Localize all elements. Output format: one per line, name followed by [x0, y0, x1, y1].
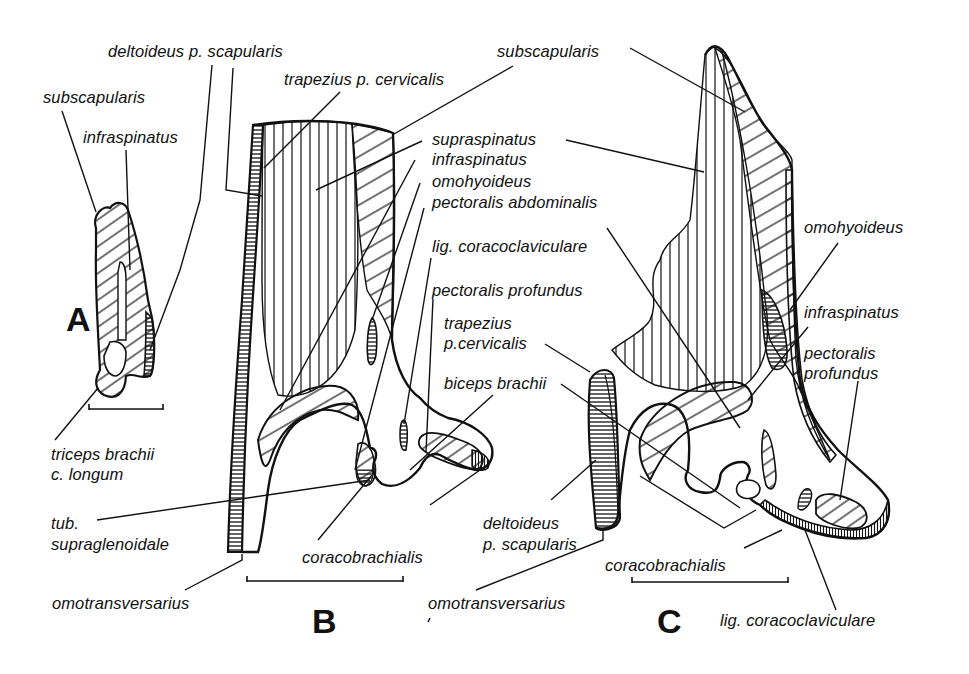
label-b-pectoralis-abdominalis: pectoralis abdominalis	[432, 193, 597, 212]
panel-b-scale-bar	[247, 576, 403, 582]
label-b-coracobrachialis: coracobrachialis	[302, 548, 423, 567]
label-c-profundus: profundus	[804, 364, 878, 383]
label-p-cervicalis: p.cervicalis	[444, 334, 527, 353]
label-b-trapezius-p-cervicalis: trapezius p. cervicalis	[284, 70, 444, 89]
label-a-infraspinatus: infraspinatus	[83, 128, 178, 147]
panel-a-scale-bar	[89, 404, 163, 410]
label-c-pectoralis: pectoralis	[804, 344, 876, 363]
label-a-triceps-c-longum: c. longum	[51, 465, 123, 484]
panel-letter-c: C	[657, 604, 682, 638]
label-c-infraspinatus: infraspinatus	[804, 303, 899, 322]
label-b-supraglenoidale: supraglenoidale	[51, 535, 169, 554]
label-c-deltoideus: deltoideus	[483, 514, 559, 533]
panel-c-scapula	[589, 46, 889, 538]
panel-c-scale-bar	[632, 577, 788, 583]
label-b-infraspinatus: infraspinatus	[432, 150, 527, 169]
label-c-omotransversarius: omotransversarius	[428, 594, 565, 613]
label-a-subscapularis: subscapularis	[43, 88, 145, 107]
label-c-coracobrachialis: coracobrachialis	[605, 556, 726, 575]
label-b-lig-coracoclaviculare: lig. coracoclaviculare	[432, 237, 587, 256]
panel-letter-a: A	[66, 302, 91, 336]
label-b-deltoideus-p-scapularis: deltoideus p. scapularis	[108, 42, 283, 61]
label-b-omotransversarius: omotransversarius	[52, 594, 189, 613]
label-b-omohyoideus: omohyoideus	[432, 172, 531, 191]
label-trapezius: trapezius	[444, 314, 512, 333]
label-c-p-scapularis: p. scapularis	[483, 535, 577, 554]
panel-a-scapula	[95, 203, 154, 397]
label-b-pectoralis-profundus: pectoralis profundus	[432, 281, 583, 300]
stray-mark	[428, 618, 430, 622]
figure-scapula-muscle-attachments: A B C subscapularis infraspinatus tricep…	[0, 0, 969, 674]
label-c-omohyoideus: omohyoideus	[804, 218, 903, 237]
label-b-tub: tub.	[51, 514, 79, 533]
label-biceps-brachii: biceps brachii	[444, 374, 546, 393]
label-b-supraspinatus: supraspinatus	[432, 130, 536, 149]
label-c-lig-coracoclaviculare: lig. coracoclaviculare	[720, 611, 875, 630]
panel-letter-b: B	[312, 604, 337, 638]
label-a-triceps-brachii: triceps brachii	[51, 445, 154, 464]
label-b-subscapularis: subscapularis	[497, 42, 599, 61]
